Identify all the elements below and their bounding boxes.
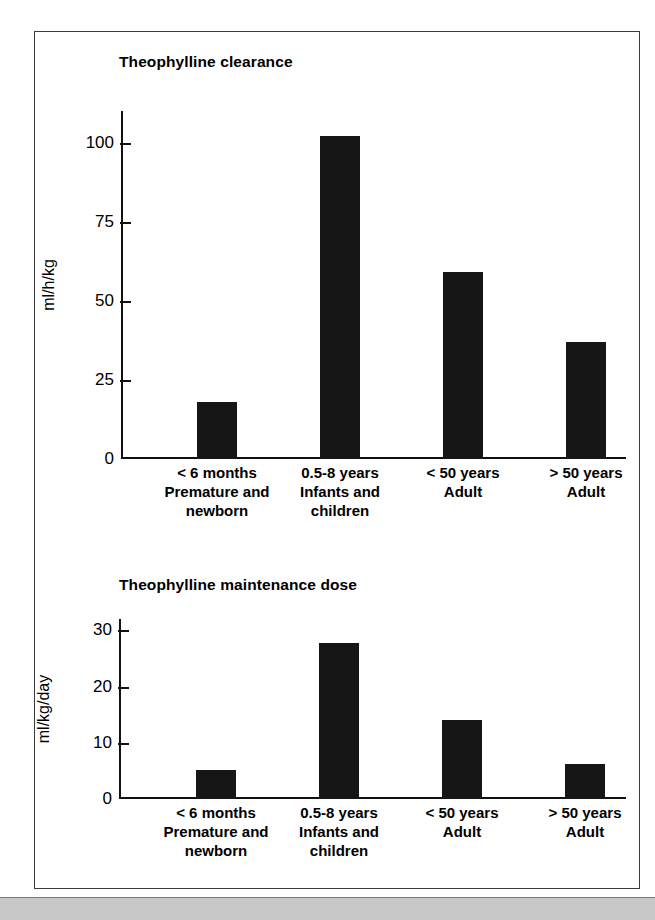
category-label-line: Adult bbox=[426, 822, 499, 841]
category-label-line: newborn bbox=[163, 841, 268, 860]
x-axis-category-label: 0.5-8 yearsInfants andchildren bbox=[299, 803, 379, 860]
y-axis-line bbox=[119, 619, 121, 799]
category-label-line: < 6 months bbox=[164, 463, 269, 482]
plot-area: ml/h/kg 0255075100< 6 monthsPremature an… bbox=[121, 111, 626, 459]
bar bbox=[320, 136, 360, 459]
chart-title: Theophylline maintenance dose bbox=[119, 576, 357, 594]
x-axis-category-label: < 6 monthsPremature andnewborn bbox=[163, 803, 268, 860]
y-axis-tick bbox=[120, 143, 131, 145]
bar bbox=[565, 764, 605, 799]
y-axis-tick bbox=[118, 687, 129, 689]
x-axis-category-label: > 50 yearsAdult bbox=[550, 463, 623, 501]
category-label-line: Adult bbox=[427, 482, 500, 501]
bar bbox=[566, 342, 606, 459]
y-axis-tick bbox=[120, 301, 131, 303]
chart-title: Theophylline clearance bbox=[119, 53, 293, 71]
y-axis-tick-label: 30 bbox=[93, 620, 112, 640]
y-axis-label: ml/kg/day bbox=[35, 675, 53, 743]
category-label-line: 0.5-8 years bbox=[300, 463, 380, 482]
category-label-line: < 6 months bbox=[163, 803, 268, 822]
x-axis-category-label: < 50 yearsAdult bbox=[426, 803, 499, 841]
category-label-line: children bbox=[299, 841, 379, 860]
category-label-line: Infants and bbox=[299, 822, 379, 841]
category-label-line: newborn bbox=[164, 501, 269, 520]
category-label-line: Infants and bbox=[300, 482, 380, 501]
y-axis-tick-label: 25 bbox=[95, 370, 114, 390]
x-axis-category-label: < 6 monthsPremature andnewborn bbox=[164, 463, 269, 520]
y-axis-tick bbox=[118, 743, 129, 745]
plot-area: ml/kg/day 0102030< 6 monthsPremature and… bbox=[119, 619, 626, 799]
category-label-line: Premature and bbox=[164, 482, 269, 501]
x-axis-category-label: > 50 yearsAdult bbox=[549, 803, 622, 841]
y-axis-tick-label: 0 bbox=[103, 789, 112, 809]
category-label-line: Premature and bbox=[163, 822, 268, 841]
y-axis-tick-label: 50 bbox=[95, 291, 114, 311]
category-label-line: Adult bbox=[549, 822, 622, 841]
figure-frame: Theophylline clearance ml/h/kg 025507510… bbox=[34, 31, 640, 889]
y-axis-tick bbox=[118, 630, 129, 632]
y-axis-tick bbox=[120, 222, 131, 224]
category-label-line: < 50 years bbox=[426, 803, 499, 822]
y-axis-line bbox=[121, 111, 123, 459]
category-label-line: children bbox=[300, 501, 380, 520]
bar bbox=[443, 272, 483, 459]
bar bbox=[442, 720, 482, 799]
y-axis-tick-label: 75 bbox=[95, 212, 114, 232]
y-axis-tick-label: 10 bbox=[93, 733, 112, 753]
scan-page-edge-strip bbox=[0, 897, 655, 920]
category-label-line: > 50 years bbox=[549, 803, 622, 822]
y-axis-tick-label: 20 bbox=[93, 677, 112, 697]
x-axis-category-label: 0.5-8 yearsInfants andchildren bbox=[300, 463, 380, 520]
category-label-line: 0.5-8 years bbox=[299, 803, 379, 822]
category-label-line: < 50 years bbox=[427, 463, 500, 482]
y-axis-tick-label: 0 bbox=[105, 449, 114, 469]
y-axis-label: ml/h/kg bbox=[40, 259, 58, 311]
bar bbox=[197, 402, 237, 459]
y-axis-tick-label: 100 bbox=[86, 133, 114, 153]
y-axis-tick bbox=[120, 380, 131, 382]
bar bbox=[319, 643, 359, 799]
x-axis-category-label: < 50 yearsAdult bbox=[427, 463, 500, 501]
bar bbox=[196, 770, 236, 799]
category-label-line: Adult bbox=[550, 482, 623, 501]
category-label-line: > 50 years bbox=[550, 463, 623, 482]
